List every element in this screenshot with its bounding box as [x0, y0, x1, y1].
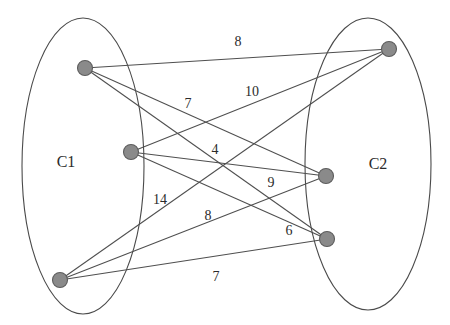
graph-node-r1	[382, 42, 397, 57]
graph-edge-l1-r1	[85, 49, 389, 68]
edge-weight-l3-r1: 14	[153, 193, 167, 207]
edge-weight-l3-r3: 7	[213, 270, 220, 284]
graph-edge-l2-r2	[131, 152, 326, 176]
edge-weight-l1-r2: 7	[185, 97, 192, 111]
edge-weight-l1-r3: 4	[212, 143, 219, 157]
edge-weight-l2-r1: 10	[245, 85, 259, 99]
graph-node-l2	[124, 145, 139, 160]
graph-edge-l2-r1	[131, 49, 389, 152]
graph-edge-layer	[60, 49, 389, 280]
graph-edge-l3-r1	[60, 49, 389, 280]
cluster-label-c1: C1	[57, 154, 76, 170]
graph-node-l1	[78, 61, 93, 76]
graph-node-r2	[319, 169, 334, 184]
bipartite-graph-figure: C1C287410961487	[0, 0, 450, 325]
edge-weight-l2-r3: 6	[286, 224, 293, 238]
edge-weight-l3-r2: 8	[205, 209, 212, 223]
graph-node-l3	[53, 273, 68, 288]
graph-edge-l3-r3	[60, 239, 327, 280]
graph-node-r3	[320, 232, 335, 247]
cluster-label-c2: C2	[369, 156, 388, 172]
edge-weight-l1-r1: 8	[235, 35, 242, 49]
edge-weight-l2-r2: 9	[268, 176, 275, 190]
